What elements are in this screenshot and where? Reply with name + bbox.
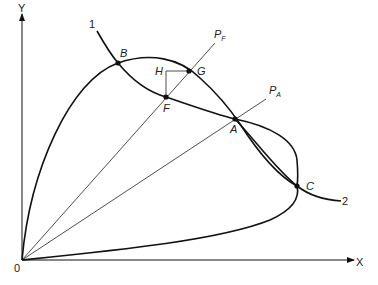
origin-label: 0 [14, 262, 20, 274]
point-a-label: A [229, 123, 237, 135]
ray-pa-label: PA [269, 84, 281, 98]
upper-boundary-curve [22, 58, 297, 260]
triangle-fhg [166, 71, 189, 97]
point-c-label: C [306, 180, 314, 192]
curve-1-label: 1 [89, 18, 95, 30]
lower-boundary-curve [22, 186, 298, 260]
point-f-label: F [163, 102, 171, 114]
point-g [186, 68, 191, 73]
curve-2-label: 2 [342, 195, 348, 207]
point-b [115, 60, 120, 65]
x-axis-label: X [356, 256, 364, 268]
point-h-label: H [155, 65, 163, 77]
point-g-label: G [197, 65, 206, 77]
point-b-label: B [120, 47, 127, 59]
point-c [294, 183, 299, 188]
point-f [163, 94, 168, 99]
point-a [232, 116, 237, 121]
curve-1-2 [97, 31, 341, 201]
y-axis-label: Y [18, 2, 26, 14]
diagram-canvas: Y X 0 1 2 B H G F A C PF PA [0, 0, 378, 285]
ray-pf-label: PF [214, 28, 226, 42]
